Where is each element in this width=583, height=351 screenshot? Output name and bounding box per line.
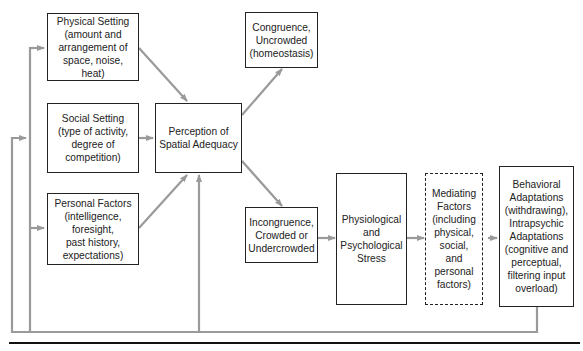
node-line: Mediating: [432, 187, 476, 200]
node-line: Factors: [432, 200, 476, 213]
node-line: foresight,: [54, 223, 131, 236]
node-line: (amount and: [50, 28, 136, 41]
node-line: Stress: [340, 252, 402, 265]
node-personal-factors: Personal Factors (intelligence, foresigh…: [47, 193, 139, 265]
node-line: past history,: [54, 236, 131, 249]
node-line: physical,: [432, 226, 476, 239]
node-line: overload): [505, 282, 568, 295]
node-line: Behavioral: [505, 178, 568, 191]
node-line: (intelligence,: [54, 210, 131, 223]
node-line: Social Setting: [58, 112, 128, 125]
node-line: social,: [432, 239, 476, 252]
node-line: personal: [432, 265, 476, 278]
node-line: Psychological: [340, 239, 402, 252]
node-line: Intrapsychic: [505, 217, 568, 230]
node-line: and: [432, 252, 476, 265]
node-line: competition): [58, 151, 128, 164]
node-line: (type of activity,: [58, 125, 128, 138]
node-line: filtering input: [505, 269, 568, 282]
node-line: Adaptations: [505, 230, 568, 243]
node-line: Perception of: [159, 125, 238, 138]
node-line: Spatial Adequacy: [159, 138, 238, 151]
node-line: (including: [432, 213, 476, 226]
node-line: Incongruence,: [248, 216, 314, 229]
node-line: space, noise, heat): [50, 54, 136, 80]
node-line: Congruence,: [250, 21, 314, 34]
node-congruence: Congruence, Uncrowded (homeostasis): [245, 12, 318, 68]
node-line: Personal Factors: [54, 197, 131, 210]
node-social-setting: Social Setting (type of activity, degree…: [47, 103, 139, 173]
node-line: Physical Setting: [50, 15, 136, 28]
bottom-rule: [9, 342, 580, 344]
node-line: factors): [432, 278, 476, 291]
node-line: (withdrawing),: [505, 204, 568, 217]
node-physical-setting: Physical Setting (amount and arrangement…: [47, 13, 139, 81]
node-line: Undercrowded: [248, 242, 314, 255]
node-line: Crowded or: [248, 229, 314, 242]
node-line: (homeostasis): [250, 47, 314, 60]
node-line: degree of: [58, 138, 128, 151]
node-stress: Physiological and Psychological Stress: [336, 173, 407, 305]
node-behavioral-adaptations: Behavioral Adaptations (withdrawing), In…: [499, 166, 574, 307]
node-incongruence: Incongruence, Crowded or Undercrowded: [245, 207, 318, 263]
node-mediating-factors: Mediating Factors (including physical, s…: [425, 173, 483, 305]
node-line: Adaptations: [505, 191, 568, 204]
node-line: Physiological: [340, 213, 402, 226]
node-line: (cognitive and: [505, 243, 568, 256]
node-line: and: [340, 226, 402, 239]
node-line: perceptual,: [505, 256, 568, 269]
node-line: Uncrowded: [250, 34, 314, 47]
node-perception-spatial-adequacy: Perception of Spatial Adequacy: [155, 103, 242, 173]
node-line: arrangement of: [50, 41, 136, 54]
node-line: expectations): [54, 249, 131, 262]
